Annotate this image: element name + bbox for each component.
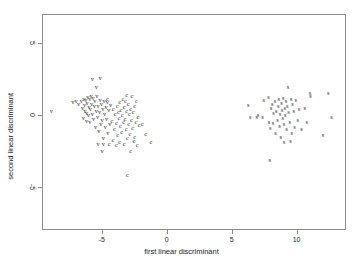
data-point-v: v <box>106 130 109 136</box>
data-point-c: c <box>118 139 121 145</box>
data-point-c: c <box>115 141 118 147</box>
data-point-s: s <box>322 132 325 138</box>
data-point-v: v <box>82 115 85 121</box>
data-point-s: s <box>274 98 277 104</box>
data-point-v: v <box>91 76 94 82</box>
data-point-s: s <box>287 109 290 115</box>
data-point-c: c <box>136 141 139 147</box>
data-point-s: s <box>330 113 333 119</box>
x-tick-label: 0 <box>165 236 169 243</box>
data-point-v: v <box>97 128 100 134</box>
data-points-layer: vvvvvvvvvvvvvvvvvvvvvvvvvvvvvvvvvvvvvvvv… <box>43 15 345 229</box>
data-point-s: s <box>267 94 270 100</box>
data-point-c: c <box>136 114 139 120</box>
x-tick-mark <box>232 230 233 234</box>
data-point-c: c <box>131 125 134 131</box>
data-point-c: c <box>133 133 136 139</box>
x-tick-label: 5 <box>230 236 234 243</box>
y-axis-tick-labels: 50-5 <box>22 0 36 273</box>
data-point-c: c <box>129 131 132 137</box>
data-point-s: s <box>283 139 286 145</box>
data-point-s: s <box>327 90 330 96</box>
data-point-c: c <box>106 96 109 102</box>
data-point-c: c <box>123 141 126 147</box>
y-tick-mark <box>38 187 42 188</box>
data-point-c: c <box>125 92 128 98</box>
data-point-v: v <box>101 148 104 154</box>
y-tick-mark <box>38 115 42 116</box>
x-tick-mark <box>102 230 103 234</box>
data-point-s: s <box>263 97 266 103</box>
data-point-c: c <box>144 131 147 137</box>
data-point-s: s <box>284 112 287 118</box>
data-point-v: v <box>50 108 53 114</box>
data-point-s: s <box>268 157 271 163</box>
data-point-c: c <box>132 109 135 115</box>
data-point-s: s <box>300 126 303 132</box>
data-point-s: s <box>274 130 277 136</box>
data-point-c: c <box>131 93 134 99</box>
data-point-s: s <box>279 133 282 139</box>
data-point-v: v <box>99 75 102 81</box>
data-point-c: c <box>149 139 152 145</box>
x-axis-label-text: first linear discriminant <box>144 247 219 256</box>
data-point-c: c <box>108 141 111 147</box>
lda-scatter-figure: vvvvvvvvvvvvvvvvvvvvvvvvvvvvvvvvvvvvvvvv… <box>0 0 363 273</box>
data-point-s: s <box>298 106 301 112</box>
data-point-c: c <box>130 117 133 123</box>
data-point-s: s <box>304 105 307 111</box>
data-point-s: s <box>257 112 260 118</box>
y-axis-label: second linear discriminant <box>4 0 16 273</box>
data-point-c: c <box>135 98 138 104</box>
data-point-s: s <box>294 97 297 103</box>
data-point-s: s <box>292 108 295 114</box>
y-tick-label: 0 <box>29 113 36 117</box>
data-point-s: s <box>285 126 288 132</box>
data-point-v: v <box>95 84 98 90</box>
data-point-s: s <box>309 92 312 98</box>
plot-frame: vvvvvvvvvvvvvvvvvvvvvvvvvvvvvvvvvvvvvvvv… <box>42 14 346 230</box>
x-tick-mark <box>297 230 298 234</box>
data-point-s: s <box>293 123 296 129</box>
data-point-c: c <box>110 118 113 124</box>
data-point-s: s <box>249 113 252 119</box>
x-tick-label: -5 <box>99 236 105 243</box>
data-point-v: v <box>97 141 100 147</box>
data-point-c: c <box>126 172 129 178</box>
data-point-s: s <box>289 118 292 124</box>
data-point-s: s <box>278 123 281 129</box>
data-point-s: s <box>272 120 275 126</box>
data-point-c: c <box>141 121 144 127</box>
data-point-s: s <box>296 117 299 123</box>
data-point-c: c <box>120 128 123 134</box>
y-axis-label-text: second linear discriminant <box>6 93 15 180</box>
data-point-c: c <box>129 148 132 154</box>
data-point-v: v <box>85 118 88 124</box>
y-tick-label: -5 <box>29 184 36 190</box>
data-point-c: c <box>123 115 126 121</box>
x-axis-label: first linear discriminant <box>0 247 363 256</box>
y-tick-mark <box>38 43 42 44</box>
data-point-s: s <box>305 119 308 125</box>
data-point-s: s <box>277 103 280 109</box>
data-point-s: s <box>291 130 294 136</box>
data-point-s: s <box>289 138 292 144</box>
data-point-s: s <box>261 113 264 119</box>
x-tick-label: 10 <box>293 236 301 243</box>
y-tick-label: 5 <box>29 41 36 45</box>
x-tick-mark <box>167 230 168 234</box>
data-point-v: v <box>88 119 91 125</box>
data-point-s: s <box>287 84 290 90</box>
data-point-s: s <box>247 102 250 108</box>
